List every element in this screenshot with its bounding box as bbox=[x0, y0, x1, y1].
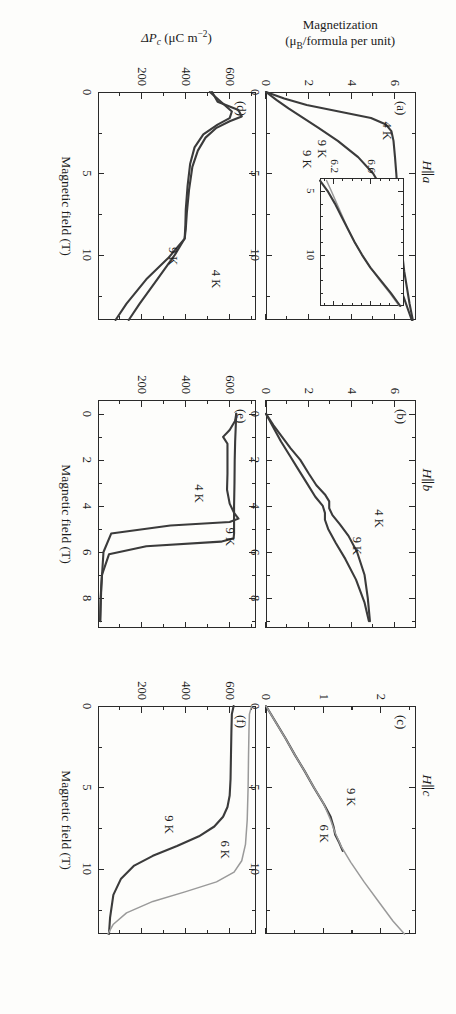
y-tick-label: 400 bbox=[180, 681, 193, 700]
curves-e bbox=[98, 400, 256, 628]
curve-9K-c bbox=[266, 706, 343, 851]
inset-panel-a: 5106.26.6 bbox=[320, 178, 404, 306]
inset-x-tick-label: 5 bbox=[305, 188, 316, 194]
inset-label-9K: 9 K bbox=[299, 150, 314, 168]
curve-label-4K-d: 4 K bbox=[207, 270, 222, 288]
y-axis-title-magnetization: Magnetization(μB/formula per unit) bbox=[265, 17, 415, 51]
figure-scan: 05100246(a)H∥a4 K9 K5106.26.69 K02468024… bbox=[0, 0, 456, 1014]
curves-f bbox=[98, 706, 256, 934]
field-orientation-a: H∥a bbox=[419, 160, 436, 183]
inset-y-tick-label: 6.6 bbox=[366, 159, 377, 173]
figure-upright: 05100246(a)H∥a4 K9 K5106.26.69 K02468024… bbox=[0, 0, 456, 1014]
curve-4K-b bbox=[266, 414, 370, 621]
y-tick-label: 2 bbox=[303, 80, 316, 86]
y-tick-label: 400 bbox=[180, 67, 193, 86]
curve-label-9K-b: 9 K bbox=[349, 537, 364, 555]
y-tick-label: 4 bbox=[345, 80, 358, 86]
panel-f: 0510200400600(f)6 K9 K bbox=[98, 706, 256, 934]
y-axis-title-magnetization-line1: Magnetization bbox=[265, 17, 415, 33]
x-tick-label: 0 bbox=[81, 411, 94, 417]
y-tick-label: 6 bbox=[388, 388, 401, 394]
panel-d: 0510200400600(d)4 K9 K bbox=[98, 92, 256, 320]
curve-label-4K-e: 4 K bbox=[190, 484, 205, 502]
inset-y-tick-label: 6.2 bbox=[329, 159, 340, 173]
curves-c bbox=[266, 706, 416, 934]
x-axis-title-f: Magnetic field (T) bbox=[58, 706, 74, 934]
y-tick-label: 600 bbox=[223, 375, 236, 394]
panel-b: 024680246(b)H∥b4 K9 K bbox=[266, 400, 416, 628]
panel-c: 0510012(c)H∥c9 K6 K bbox=[266, 706, 416, 934]
y-tick-label: 400 bbox=[180, 375, 193, 394]
field-orientation-c: H∥c bbox=[419, 774, 436, 796]
curve-label-4K-b: 4 K bbox=[371, 509, 386, 527]
y-tick-label: 200 bbox=[136, 67, 149, 86]
curve-label-4K-a: 4 K bbox=[379, 122, 394, 140]
curve-9K-e bbox=[100, 414, 236, 621]
curve-4K-e bbox=[100, 414, 238, 621]
inset-curve-4K bbox=[327, 181, 400, 306]
curve-label-6K-f: 6 K bbox=[217, 840, 232, 858]
y-tick-label: 600 bbox=[223, 681, 236, 700]
y-tick-label: 2 bbox=[303, 388, 316, 394]
y-tick-label: 200 bbox=[136, 681, 149, 700]
curve-label-9K-a: 9 K bbox=[314, 140, 329, 158]
y-tick-label: 0 bbox=[260, 388, 273, 394]
x-tick-label: 5 bbox=[81, 784, 94, 790]
x-tick-label: 6 bbox=[81, 549, 94, 555]
y-axis-title-magnetization-line2: (μB/formula per unit) bbox=[265, 33, 415, 51]
x-tick-label: 10 bbox=[81, 863, 94, 876]
y-tick-label: 200 bbox=[136, 375, 149, 394]
curves-d bbox=[98, 92, 256, 320]
y-tick-label: 4 bbox=[345, 388, 358, 394]
y-tick-label: 600 bbox=[223, 67, 236, 86]
curve-6K-c bbox=[266, 706, 404, 934]
x-tick-label: 0 bbox=[81, 703, 94, 709]
x-tick-label: 0 bbox=[81, 89, 94, 95]
curve-label-9K-d: 9 K bbox=[165, 247, 180, 265]
inset-curves bbox=[320, 178, 404, 306]
curve-6K-f bbox=[108, 706, 252, 934]
curve-label-9K-c: 9 K bbox=[343, 788, 358, 806]
y-axis-title-polarization: ΔPc (μC m−2) bbox=[102, 29, 252, 48]
field-orientation-b: H∥b bbox=[419, 468, 436, 491]
x-axis-title-d: Magnetic field (T) bbox=[58, 92, 74, 320]
x-tick-label: 2 bbox=[81, 457, 94, 463]
y-tick-label: 6 bbox=[388, 80, 401, 86]
x-tick-label: 10 bbox=[81, 249, 94, 262]
x-axis-title-e: Magnetic field (T) bbox=[58, 400, 74, 628]
curve-label-6K-c: 6 K bbox=[316, 824, 331, 842]
y-tick-label: 1 bbox=[317, 694, 330, 700]
panel-a: 05100246(a)H∥a4 K9 K5106.26.69 K bbox=[266, 92, 416, 320]
curve-label-9K-e: 9 K bbox=[222, 528, 237, 546]
y-tick-label: 2 bbox=[375, 694, 388, 700]
x-tick-label: 5 bbox=[81, 170, 94, 176]
curve-9K-b bbox=[266, 414, 369, 621]
y-tick-label: 0 bbox=[260, 694, 273, 700]
y-tick-label: 0 bbox=[260, 80, 273, 86]
inset-x-tick-label: 10 bbox=[305, 249, 316, 260]
inset-curve-9K bbox=[320, 181, 400, 306]
curves-b bbox=[266, 400, 416, 628]
curve-label-9K-f: 9 K bbox=[160, 815, 175, 833]
x-tick-label: 8 bbox=[81, 595, 94, 601]
x-tick-label: 4 bbox=[81, 503, 94, 509]
panel-e: 02468200400600(e)4 K9 K bbox=[98, 400, 256, 628]
